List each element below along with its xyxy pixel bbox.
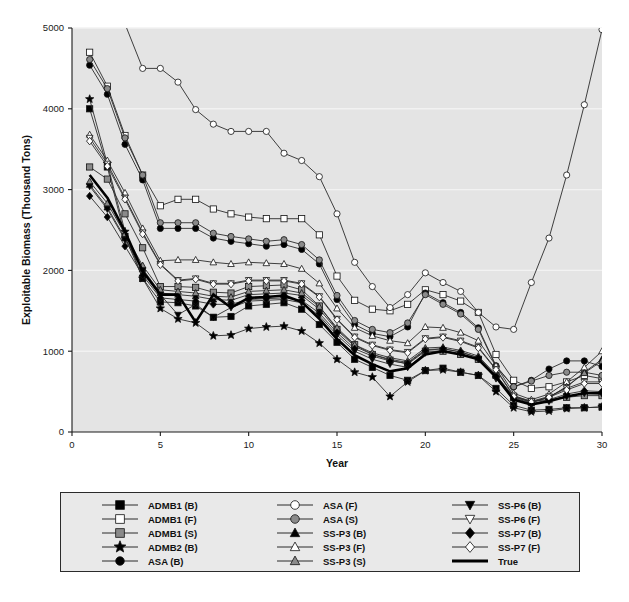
svg-text:10: 10: [243, 439, 254, 450]
legend-marker-triangle-icon: [274, 554, 316, 568]
legend-label: SS-P6 (B): [498, 500, 541, 511]
svg-text:30: 30: [597, 439, 608, 450]
legend-item[interactable]: ADMB1 (B): [99, 498, 274, 512]
legend-label: ASA (B): [148, 556, 184, 567]
legend-label: SS-P3 (F): [323, 542, 365, 553]
legend-marker-diamond-icon: [449, 540, 491, 554]
svg-text:20: 20: [420, 439, 431, 450]
figure-root: 010002000300040005000051015202530YearExp…: [0, 0, 629, 602]
legend-marker-none-icon: [449, 554, 491, 568]
biomass-line-chart: 010002000300040005000051015202530YearExp…: [14, 8, 614, 483]
legend-item[interactable]: ASA (F): [274, 498, 449, 512]
svg-text:5000: 5000: [43, 22, 64, 33]
legend-label: ASA (F): [323, 500, 357, 511]
legend-item[interactable]: SS-P7 (F): [449, 540, 617, 554]
legend-marker-square-icon: [99, 512, 141, 526]
legend-marker-circle-icon: [274, 498, 316, 512]
legend-item[interactable]: ADMB1 (S): [99, 526, 274, 540]
svg-text:4000: 4000: [43, 103, 64, 114]
legend-label: SS-P6 (F): [498, 514, 540, 525]
legend-label: True: [498, 556, 518, 567]
legend-label: SS-P7 (B): [498, 528, 541, 539]
legend-item[interactable]: SS-P3 (B): [274, 526, 449, 540]
legend-marker-square-icon: [99, 526, 141, 540]
legend-item[interactable]: SS-P7 (B): [449, 526, 617, 540]
svg-text:15: 15: [332, 439, 343, 450]
svg-text:25: 25: [508, 439, 519, 450]
legend-item[interactable]: ASA (S): [274, 512, 449, 526]
legend-item[interactable]: ASA (B): [99, 554, 274, 568]
legend-label: ADMB1 (S): [148, 528, 197, 539]
legend-marker-circle-icon: [99, 554, 141, 568]
legend-label: ADMB1 (F): [148, 514, 197, 525]
legend-item[interactable]: SS-P3 (S): [274, 554, 449, 568]
legend-label: ADMB2 (B): [148, 542, 198, 553]
legend-label: SS-P7 (F): [498, 542, 540, 553]
legend-item[interactable]: ADMB2 (B): [99, 540, 274, 554]
svg-text:5: 5: [158, 439, 163, 450]
legend-label: SS-P3 (B): [323, 528, 366, 539]
chart-legend: ADMB1 (B)ADMB1 (F)ADMB1 (S)ADMB2 (B)ASA …: [60, 492, 580, 572]
legend-item[interactable]: True: [449, 554, 617, 568]
svg-text:0: 0: [69, 439, 74, 450]
legend-grid: ADMB1 (B)ADMB1 (F)ADMB1 (S)ADMB2 (B)ASA …: [61, 493, 579, 571]
legend-marker-triangle-down-icon: [449, 498, 491, 512]
legend-marker-triangle-icon: [274, 526, 316, 540]
legend-marker-circle-icon: [274, 512, 316, 526]
y-axis-title: Exploitable Biomass (Thousand Tons): [20, 135, 32, 325]
svg-text:0: 0: [59, 426, 64, 437]
legend-item[interactable]: SS-P6 (F): [449, 512, 617, 526]
legend-item[interactable]: SS-P3 (F): [274, 540, 449, 554]
legend-label: SS-P3 (S): [323, 556, 366, 567]
legend-marker-square-icon: [99, 498, 141, 512]
legend-marker-triangle-down-icon: [449, 512, 491, 526]
legend-marker-star-icon: [99, 540, 141, 554]
svg-text:3000: 3000: [43, 184, 64, 195]
legend-item[interactable]: ADMB1 (F): [99, 512, 274, 526]
legend-marker-diamond-icon: [449, 526, 491, 540]
legend-label: ASA (S): [323, 514, 358, 525]
legend-marker-triangle-icon: [274, 540, 316, 554]
chart-panel: 010002000300040005000051015202530YearExp…: [14, 8, 614, 483]
legend-item[interactable]: SS-P6 (B): [449, 498, 617, 512]
x-axis-title: Year: [326, 457, 348, 469]
svg-text:2000: 2000: [43, 265, 64, 276]
legend-label: ADMB1 (B): [148, 500, 198, 511]
svg-text:1000: 1000: [43, 346, 64, 357]
